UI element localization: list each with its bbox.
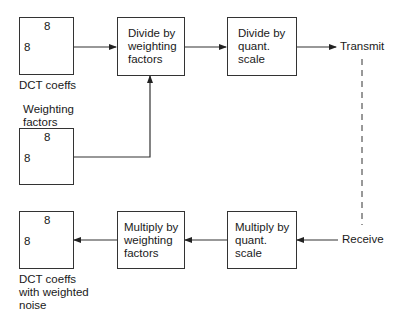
divide-by-quant-block: Divide by quant. scale (227, 17, 297, 76)
matrix-rows: 8 (24, 152, 30, 164)
output-dct-matrix: 8 8 (19, 211, 74, 269)
dct-coeffs-caption: DCT coeffs (19, 79, 76, 92)
divide-by-weighting-block: Divide by weighting factors (117, 17, 185, 76)
dct-coeffs-matrix: 8 8 (19, 17, 74, 75)
weighting-factors-matrix: 8 8 (19, 128, 74, 185)
matrix-cols: 8 (44, 131, 50, 143)
output-caption: DCT coeffs with weighted noise (19, 273, 89, 312)
matrix-cols: 8 (44, 214, 50, 226)
matrix-cols: 8 (44, 20, 50, 32)
transmit-label: Transmit (340, 40, 384, 53)
multiply-by-quant-block: Multiply by quant. scale (227, 211, 297, 269)
weighting-factors-caption: Weighting factors (23, 103, 74, 129)
receive-label: Receive (342, 233, 384, 246)
multiply-by-weighting-block: Multiply by weighting factors (117, 211, 185, 269)
matrix-rows: 8 (24, 41, 30, 53)
matrix-rows: 8 (24, 235, 30, 247)
